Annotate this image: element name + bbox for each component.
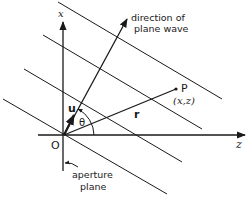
point-p-label: P bbox=[181, 82, 188, 95]
wavefront-line bbox=[43, 35, 202, 129]
aperture-label-line1: aperture bbox=[72, 169, 113, 180]
aperture-pointer bbox=[65, 163, 78, 167]
x-axis-label: x bbox=[58, 8, 64, 19]
z-axis-label: z bbox=[235, 138, 242, 151]
wavefront-line bbox=[24, 69, 182, 162]
unit-vector-label: u bbox=[68, 102, 76, 115]
direction-label-line1: direction of bbox=[131, 12, 185, 23]
angle-label: θ bbox=[79, 117, 85, 128]
point-coords-label: (x,z) bbox=[173, 95, 195, 106]
point-p bbox=[174, 87, 177, 90]
radius-label: r bbox=[134, 108, 140, 121]
origin-label: O bbox=[51, 139, 60, 152]
plane-wave-diagram: x z O direction of plane wave P (x,z) r … bbox=[0, 0, 250, 204]
direction-label-line2: plane wave bbox=[134, 23, 189, 34]
radius-line bbox=[64, 89, 176, 135]
aperture-label-line2: plane bbox=[80, 181, 107, 192]
